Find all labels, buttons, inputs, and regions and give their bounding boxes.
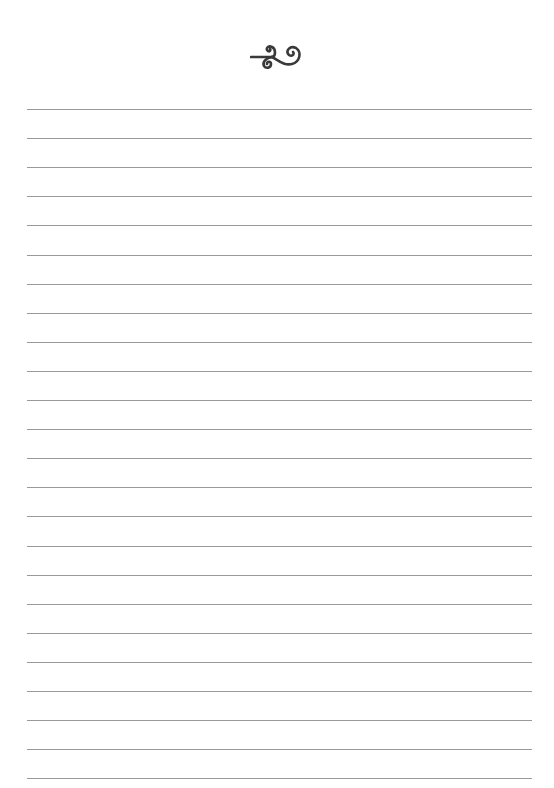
ruled-line — [27, 458, 532, 459]
ruled-line — [27, 400, 532, 401]
ruled-line — [27, 167, 532, 168]
ruled-line — [27, 516, 532, 517]
ruled-line — [27, 720, 532, 721]
ruled-line — [27, 255, 532, 256]
ruled-line — [27, 313, 532, 314]
ruled-line — [27, 749, 532, 750]
ruled-line — [27, 342, 532, 343]
ruled-line — [27, 371, 532, 372]
writing-lines — [0, 0, 554, 788]
ruled-line — [27, 138, 532, 139]
ruled-line — [27, 487, 532, 488]
ruled-line — [27, 546, 532, 547]
ruled-line — [27, 225, 532, 226]
ruled-line — [27, 575, 532, 576]
ruled-line — [27, 196, 532, 197]
ruled-line — [27, 662, 532, 663]
ruled-line — [27, 691, 532, 692]
ruled-line — [27, 633, 532, 634]
ruled-line — [27, 778, 532, 779]
ruled-line — [27, 109, 532, 110]
ruled-line — [27, 604, 532, 605]
ruled-line — [27, 429, 532, 430]
ruled-line — [27, 284, 532, 285]
